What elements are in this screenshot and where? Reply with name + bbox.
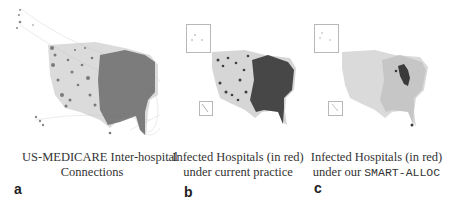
- caption-b-line2: under current practice: [168, 165, 308, 180]
- caption-c: Infected Hospitals (in red) under our SM…: [304, 150, 449, 180]
- infected-map-smart-alloc: [300, 0, 449, 140]
- caption-a-line2: Connections: [22, 165, 162, 180]
- panel-b: [150, 0, 300, 140]
- infected-map-current-practice: [150, 0, 300, 140]
- caption-a-line1: US-MEDICARE Inter-hospital: [22, 150, 162, 165]
- panel-label-a: a: [14, 181, 22, 197]
- caption-c-line1: Infected Hospitals (in red): [304, 150, 449, 165]
- panel-label-c: c: [314, 180, 322, 196]
- method-name: SMART-ALLOC: [364, 166, 440, 179]
- caption-a: US-MEDICARE Inter-hospital Connections: [22, 150, 162, 180]
- caption-c-line2: under our SMART-ALLOC: [304, 165, 449, 180]
- panel-label-b: b: [184, 184, 193, 200]
- panel-a: [0, 0, 160, 140]
- caption-b-line1: Infected Hospitals (in red): [168, 150, 308, 165]
- panel-c: [300, 0, 449, 140]
- caption-c-prefix: under our: [313, 165, 364, 179]
- caption-b: Infected Hospitals (in red) under curren…: [168, 150, 308, 180]
- us-connections-map: [0, 0, 160, 140]
